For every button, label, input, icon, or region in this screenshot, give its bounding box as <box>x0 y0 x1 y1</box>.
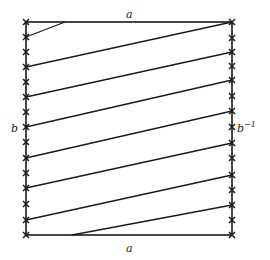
square-border <box>26 22 232 235</box>
slanted-line <box>26 52 232 97</box>
right-edge-label: b−1 <box>237 120 256 135</box>
top-edge-label: a <box>126 8 133 21</box>
square-outline <box>26 22 232 235</box>
identified-square-diagram: a a b b−1 <box>0 0 270 260</box>
left-edge-label: b <box>11 122 18 135</box>
slanted-line <box>26 80 232 127</box>
slanted-line <box>26 111 232 158</box>
slanted-foliation-lines <box>26 22 232 235</box>
right-edge-label-exponent: −1 <box>244 120 256 129</box>
slanted-line <box>26 22 232 67</box>
slanted-line <box>72 205 232 235</box>
bottom-edge-label: a <box>126 242 133 255</box>
slanted-line <box>26 22 65 37</box>
right-edge-label-base: b <box>237 122 244 135</box>
